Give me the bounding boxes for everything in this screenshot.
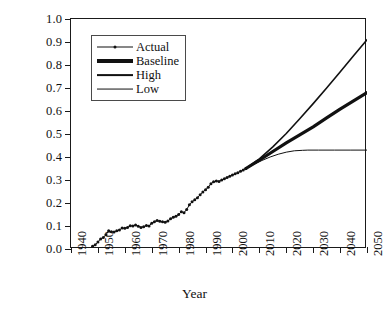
x-tick-label: 1950 xyxy=(103,231,116,256)
legend: ActualBaselineHighLow xyxy=(91,35,186,101)
x-tick xyxy=(367,247,368,253)
legend-label: Baseline xyxy=(133,55,179,68)
x-tick-label: 2000 xyxy=(237,231,250,256)
y-tick-label: 0.8 xyxy=(46,59,62,72)
x-tick xyxy=(206,247,207,253)
y-tick xyxy=(65,42,71,43)
figure: Technological change 0.00.10.20.30.40.50… xyxy=(0,0,389,311)
x-tick-label: 2030 xyxy=(318,231,331,256)
x-tick-label: 1970 xyxy=(157,231,170,256)
y-tick-label: 0.2 xyxy=(46,197,62,210)
y-tick xyxy=(65,226,71,227)
x-tick-label: 2010 xyxy=(264,231,277,256)
y-tick-label: 0.9 xyxy=(46,36,62,49)
y-tick-label: 0.1 xyxy=(46,220,62,233)
x-tick xyxy=(286,247,287,253)
y-tick-label: 0.4 xyxy=(46,151,62,164)
x-tick xyxy=(259,247,260,253)
legend-swatch-icon xyxy=(97,54,133,68)
y-tick xyxy=(65,88,71,89)
x-tick-label: 1990 xyxy=(211,231,224,256)
legend-item-high: High xyxy=(97,68,179,82)
x-tick xyxy=(340,247,341,253)
x-tick-label: 1940 xyxy=(76,231,89,256)
x-tick-label: 1980 xyxy=(184,231,197,256)
legend-item-baseline: Baseline xyxy=(97,54,179,68)
y-tick xyxy=(65,157,71,158)
legend-item-actual: Actual xyxy=(97,40,179,54)
x-tick xyxy=(98,247,99,253)
y-tick xyxy=(65,203,71,204)
legend-label: High xyxy=(133,69,161,82)
x-tick xyxy=(313,247,314,253)
y-tick xyxy=(65,19,71,20)
y-tick-label: 0.0 xyxy=(46,243,62,256)
y-tick-label: 0.7 xyxy=(46,82,62,95)
y-tick-label: 0.3 xyxy=(46,174,62,187)
x-tick-label: 1960 xyxy=(130,231,143,256)
series-baseline xyxy=(246,93,367,169)
legend-item-low: Low xyxy=(97,82,179,96)
y-tick-label: 1.0 xyxy=(46,13,62,26)
x-tick-label: 2040 xyxy=(345,231,358,256)
x-tick xyxy=(71,247,72,253)
legend-swatch-icon xyxy=(97,40,133,54)
y-tick xyxy=(65,111,71,112)
legend-label: Low xyxy=(133,83,159,96)
x-tick xyxy=(232,247,233,253)
x-tick-label: 2050 xyxy=(372,231,385,256)
x-tick-label: 2020 xyxy=(291,231,304,256)
plot-area: 0.00.10.20.30.40.50.60.70.80.91.0 194019… xyxy=(70,18,366,248)
legend-label: Actual xyxy=(133,41,169,54)
x-tick xyxy=(179,247,180,253)
y-tick xyxy=(65,134,71,135)
y-tick xyxy=(65,180,71,181)
legend-swatch-icon xyxy=(97,68,133,82)
legend-swatch-icon xyxy=(97,82,133,96)
x-tick xyxy=(125,247,126,253)
y-tick xyxy=(65,65,71,66)
series-low xyxy=(246,150,367,168)
x-axis-label: Year xyxy=(182,286,207,302)
y-tick-label: 0.5 xyxy=(46,128,62,141)
x-tick xyxy=(152,247,153,253)
y-tick-label: 0.6 xyxy=(46,105,62,118)
